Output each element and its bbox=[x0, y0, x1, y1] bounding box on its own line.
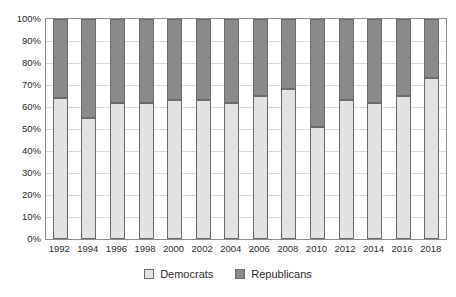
y-axis-labels: 0%10%20%30%40%50%60%70%80%90%100% bbox=[0, 18, 41, 238]
y-tick-label: 30% bbox=[0, 167, 41, 178]
bar-segment-democrats[interactable] bbox=[139, 103, 154, 239]
y-tick-label: 70% bbox=[0, 79, 41, 90]
bar-segment-democrats[interactable] bbox=[81, 118, 96, 239]
legend-item-dem[interactable]: Democrats bbox=[144, 268, 213, 280]
bar-stack[interactable] bbox=[139, 19, 154, 239]
bar-stack[interactable] bbox=[281, 19, 296, 239]
bar-segment-republicans[interactable] bbox=[253, 19, 268, 96]
bar-segment-republicans[interactable] bbox=[196, 19, 211, 100]
bar-stack[interactable] bbox=[339, 19, 354, 239]
y-tick-label: 0% bbox=[0, 233, 41, 244]
y-tick-label: 40% bbox=[0, 145, 41, 156]
y-tick-label: 100% bbox=[0, 13, 41, 24]
bar-segment-democrats[interactable] bbox=[224, 103, 239, 239]
bar-segment-republicans[interactable] bbox=[424, 19, 439, 78]
bar-segment-republicans[interactable] bbox=[396, 19, 411, 96]
bar-stack[interactable] bbox=[310, 19, 325, 239]
y-tick-label: 80% bbox=[0, 57, 41, 68]
bar-stack[interactable] bbox=[167, 19, 182, 239]
plot-area bbox=[45, 18, 447, 240]
bar-stack[interactable] bbox=[224, 19, 239, 239]
stacked-bar-chart: 0%10%20%30%40%50%60%70%80%90%100% 199219… bbox=[0, 0, 456, 297]
bar-segment-democrats[interactable] bbox=[253, 96, 268, 239]
bar-segment-republicans[interactable] bbox=[110, 19, 125, 103]
bar-segment-republicans[interactable] bbox=[281, 19, 296, 89]
bar-segment-republicans[interactable] bbox=[53, 19, 68, 98]
bar-segment-democrats[interactable] bbox=[396, 96, 411, 239]
bar-stack[interactable] bbox=[253, 19, 268, 239]
bar-stack[interactable] bbox=[196, 19, 211, 239]
legend-swatch-icon bbox=[144, 269, 154, 279]
bar-segment-democrats[interactable] bbox=[167, 100, 182, 239]
legend-label: Republicans bbox=[251, 268, 312, 280]
bar-segment-democrats[interactable] bbox=[281, 89, 296, 239]
bar-segment-republicans[interactable] bbox=[167, 19, 182, 100]
bar-segment-republicans[interactable] bbox=[339, 19, 354, 100]
bar-segment-democrats[interactable] bbox=[424, 78, 439, 239]
y-tick-label: 90% bbox=[0, 35, 41, 46]
y-tick-label: 10% bbox=[0, 211, 41, 222]
bar-stack[interactable] bbox=[53, 19, 68, 239]
bar-segment-republicans[interactable] bbox=[224, 19, 239, 103]
bar-segment-democrats[interactable] bbox=[53, 98, 68, 239]
legend-swatch-icon bbox=[235, 269, 245, 279]
bar-segment-republicans[interactable] bbox=[139, 19, 154, 103]
bar-segment-democrats[interactable] bbox=[196, 100, 211, 239]
bar-segment-republicans[interactable] bbox=[81, 19, 96, 118]
legend-item-rep[interactable]: Republicans bbox=[235, 268, 312, 280]
bar-group bbox=[46, 19, 446, 239]
y-tick-label: 50% bbox=[0, 123, 41, 134]
bar-stack[interactable] bbox=[81, 19, 96, 239]
y-tick-label: 20% bbox=[0, 189, 41, 200]
bar-segment-democrats[interactable] bbox=[367, 103, 382, 239]
y-tick-label: 60% bbox=[0, 101, 41, 112]
bar-stack[interactable] bbox=[367, 19, 382, 239]
bar-stack[interactable] bbox=[396, 19, 411, 239]
bar-segment-democrats[interactable] bbox=[339, 100, 354, 239]
bar-segment-democrats[interactable] bbox=[110, 103, 125, 239]
x-tick-label: 2018 bbox=[411, 243, 451, 254]
bar-segment-republicans[interactable] bbox=[310, 19, 325, 127]
bar-segment-republicans[interactable] bbox=[367, 19, 382, 103]
bar-stack[interactable] bbox=[110, 19, 125, 239]
bar-stack[interactable] bbox=[424, 19, 439, 239]
bar-segment-democrats[interactable] bbox=[310, 127, 325, 239]
legend-label: Democrats bbox=[160, 268, 213, 280]
x-axis-labels: 1992199419961998200020022004200620082010… bbox=[45, 243, 445, 259]
chart-legend: DemocratsRepublicans bbox=[0, 268, 456, 280]
